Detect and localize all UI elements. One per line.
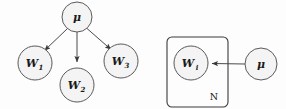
edge-mu-to-w1	[45, 29, 68, 51]
node-mu-right: μ	[245, 48, 277, 80]
node-w2: W 2	[60, 68, 94, 102]
edge-mu-to-wi	[212, 64, 245, 65]
node-w3-subscript: 3	[125, 61, 130, 70]
node-mu-left-label: μ	[73, 11, 81, 24]
node-mu-left: μ	[62, 2, 92, 32]
node-w2-subscript: 2	[80, 85, 86, 94]
node-wi: W i	[174, 46, 208, 80]
node-w1-subscript: 1	[39, 63, 44, 72]
node-mu-right-label: μ	[257, 58, 265, 71]
edge-mu-to-w3	[87, 29, 111, 50]
node-wi-label: W	[182, 57, 196, 70]
graphical-model-figure: μ W 1 W 2 W 3	[0, 0, 286, 109]
node-w1: W 1	[18, 46, 52, 80]
figure-canvas: μ W 1 W 2 W 3	[0, 0, 286, 109]
node-wi-subscript: i	[196, 63, 199, 72]
plate-graph-panel: N W i μ	[167, 37, 277, 107]
node-w3: W 3	[104, 44, 138, 78]
plate-count-label: N	[210, 91, 218, 102]
expanded-graph-panel: μ W 1 W 2 W 3	[18, 2, 138, 102]
